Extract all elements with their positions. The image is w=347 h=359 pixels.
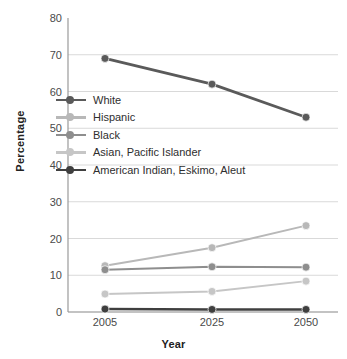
data-point	[208, 80, 216, 88]
legend-item[interactable]: Hispanic	[56, 109, 245, 127]
data-point	[208, 244, 216, 252]
legend-item[interactable]: American Indian, Eskimo, Aleut	[56, 161, 245, 179]
data-point	[302, 222, 310, 230]
legend-label: Asian, Pacific Islander	[86, 146, 201, 158]
data-point	[302, 263, 310, 271]
data-point	[208, 263, 216, 271]
x-tick-label: 2025	[182, 316, 242, 328]
data-point	[302, 277, 310, 285]
x-tick-label: 2050	[276, 316, 336, 328]
legend-item[interactable]: White	[56, 91, 245, 109]
plot-area	[0, 0, 347, 359]
legend-swatch-icon	[56, 164, 86, 176]
x-tick-label: 2005	[75, 316, 135, 328]
legend-marker-icon	[66, 131, 74, 139]
data-point	[101, 266, 109, 274]
legend-label: American Indian, Eskimo, Aleut	[86, 164, 245, 176]
legend-marker-icon	[66, 96, 74, 104]
chart-legend: WhiteHispanicBlackAsian, Pacific Islande…	[56, 91, 245, 179]
data-point	[101, 305, 109, 313]
series-line	[105, 281, 306, 294]
legend-marker-icon	[66, 166, 74, 174]
legend-swatch-icon	[56, 111, 86, 123]
series-line	[105, 267, 306, 270]
legend-swatch-icon	[56, 94, 86, 106]
data-point	[302, 113, 310, 121]
data-point	[208, 305, 216, 313]
data-point	[208, 287, 216, 295]
legend-marker-icon	[66, 148, 74, 156]
legend-item[interactable]: Black	[56, 126, 245, 144]
series-line	[105, 226, 306, 266]
legend-label: Black	[86, 129, 120, 141]
legend-label: Hispanic	[86, 111, 135, 123]
legend-label: White	[86, 94, 121, 106]
legend-swatch-icon	[56, 129, 86, 141]
line-chart: 01020304050607080 Percentage Year WhiteH…	[0, 0, 347, 359]
legend-item[interactable]: Asian, Pacific Islander	[56, 144, 245, 162]
data-point	[101, 54, 109, 62]
data-point	[302, 305, 310, 313]
data-point	[101, 290, 109, 298]
legend-marker-icon	[66, 113, 74, 121]
legend-swatch-icon	[56, 146, 86, 158]
